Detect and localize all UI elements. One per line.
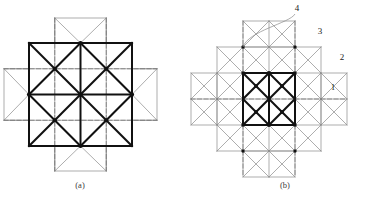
panel-b-caption: (b) <box>280 180 290 190</box>
figure-background <box>0 0 371 197</box>
grid-node-center <box>78 92 83 97</box>
grid-node-center <box>280 110 284 114</box>
grid-node-center <box>53 67 57 71</box>
grid-node-center <box>104 67 108 71</box>
figure-container: (a) (b) 4321 <box>0 0 371 197</box>
grid-node-corner <box>293 71 296 74</box>
panel-a-caption: (a) <box>75 180 85 190</box>
grid-node-edge <box>27 92 31 96</box>
grid-node-corner <box>241 123 244 126</box>
grid-node-center <box>104 118 108 122</box>
callout-label-4: 4 <box>295 3 300 13</box>
callout-label-1: 1 <box>331 82 336 92</box>
grid-node-edge <box>267 71 271 75</box>
grid-node-corner <box>293 123 296 126</box>
grid-node-outer <box>293 45 296 48</box>
grid-node-edge <box>130 92 134 96</box>
grid-node-outer <box>293 149 296 152</box>
callout-label-3: 3 <box>318 26 323 36</box>
grid-node-center <box>254 110 258 114</box>
grid-node-center <box>254 84 258 88</box>
grid-node-outer <box>241 149 244 152</box>
grid-node-center <box>280 84 284 88</box>
grid-node-edge <box>267 123 271 127</box>
technical-figure-svg: (a) (b) 4321 <box>0 0 371 197</box>
grid-node-edge <box>78 144 82 148</box>
grid-node-center <box>53 118 57 122</box>
grid-node-edge <box>78 41 82 45</box>
grid-node-corner <box>241 71 244 74</box>
callout-label-2: 2 <box>340 52 345 62</box>
